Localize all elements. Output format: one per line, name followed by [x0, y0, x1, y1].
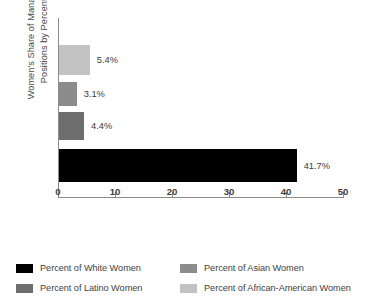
bar	[59, 82, 77, 106]
x-axis-tick-label: 0	[55, 186, 60, 197]
legend-label: Percent of Latino Women	[40, 283, 142, 293]
bar	[59, 149, 297, 182]
y-axis-title-line-2: Positions by Percentage	[38, 0, 51, 83]
bar-value-label: 4.4%	[91, 121, 112, 131]
legend-item[interactable]: Percent of African-American Women	[180, 278, 344, 298]
x-axis-line	[58, 197, 344, 198]
chart-legend: Percent of White WomenPercent of Asian W…	[16, 258, 368, 298]
legend-item[interactable]: Percent of Latino Women	[16, 278, 180, 298]
legend-swatch-icon	[16, 284, 33, 293]
bar-value-label: 5.4%	[97, 55, 118, 65]
legend-label: Percent of African-American Women	[204, 283, 351, 293]
bar-value-label: 3.1%	[84, 89, 105, 99]
y-axis-title-line-1: Women's Share of Management	[25, 0, 38, 99]
bar	[59, 112, 84, 140]
legend-item[interactable]: Percent of Asian Women	[180, 258, 344, 278]
plot-area: 5.4%3.1%4.4%41.7%	[58, 18, 344, 198]
bar	[59, 45, 90, 75]
x-axis-tick-label: 20	[167, 186, 178, 197]
bar-value-label: 41.7%	[304, 161, 330, 171]
legend-item[interactable]: Percent of White Women	[16, 258, 180, 278]
x-axis-tick-label: 10	[110, 186, 121, 197]
legend-swatch-icon	[180, 264, 197, 273]
legend-swatch-icon	[180, 284, 197, 293]
legend-label: Percent of Asian Women	[204, 263, 304, 273]
bar-chart: Women's Share of Management Positions by…	[0, 0, 383, 303]
legend-label: Percent of White Women	[40, 263, 141, 273]
x-axis-tick-label: 50	[338, 186, 349, 197]
legend-swatch-icon	[16, 264, 33, 273]
y-axis-title: Women's Share of Management Positions by…	[21, 0, 55, 121]
x-axis-tick-label: 30	[224, 186, 235, 197]
x-axis-tick-label: 40	[281, 186, 292, 197]
